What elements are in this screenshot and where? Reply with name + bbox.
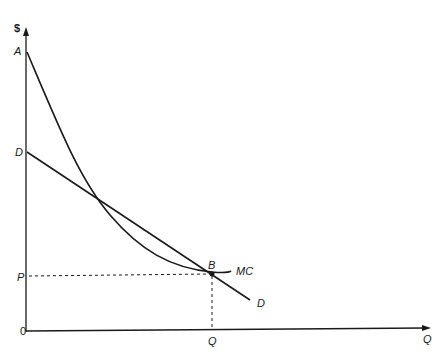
label-demand: D	[257, 298, 265, 309]
label-p: P	[17, 272, 24, 283]
equilibrium-point-b	[210, 272, 215, 277]
label-mc: MC	[236, 266, 253, 277]
label-q-tick: Q	[208, 336, 217, 347]
label-d-intercept: D	[15, 147, 23, 158]
x-axis-arrow-icon	[422, 325, 431, 331]
label-a: A	[14, 46, 21, 57]
price-guide-line	[29, 274, 210, 276]
x-axis-label: Q	[423, 334, 432, 345]
diagram-canvas	[0, 0, 445, 356]
y-axis-label: $	[14, 23, 20, 34]
demand-line	[27, 152, 250, 300]
label-b: B	[208, 260, 215, 271]
x-axis	[26, 328, 425, 331]
y-axis-arrow-icon	[23, 27, 29, 36]
origin-label: 0	[20, 326, 26, 337]
mc-curve	[27, 52, 231, 273]
